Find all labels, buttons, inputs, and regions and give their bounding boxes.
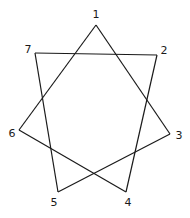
vertex-label-7: 7 (25, 43, 32, 56)
vertex-label-5: 5 (51, 196, 58, 209)
vertex-label-6: 6 (9, 127, 16, 140)
star-edges (19, 25, 170, 192)
edge-6-1 (19, 25, 96, 130)
edge-5-7 (35, 53, 58, 192)
edge-1-3 (96, 25, 170, 134)
vertex-label-4: 4 (125, 196, 132, 209)
vertex-label-1: 1 (93, 8, 100, 21)
vertex-label-2: 2 (161, 44, 168, 57)
edge-7-2 (35, 53, 157, 55)
vertex-label-3: 3 (176, 129, 183, 142)
edge-4-6 (19, 130, 126, 192)
heptagram-diagram: 1234567 (0, 0, 190, 218)
